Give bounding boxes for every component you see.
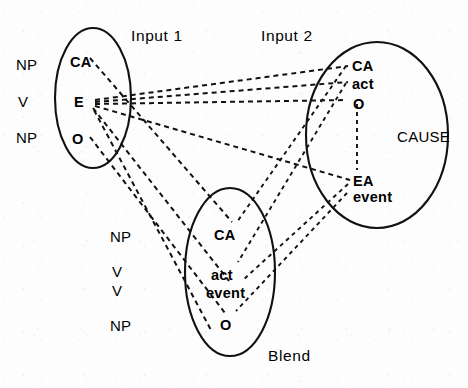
mapping-line-input1e-input2act bbox=[95, 82, 348, 102]
annotation-input2-cause: CAUSE bbox=[397, 129, 450, 144]
role-label-blend-v-1: V bbox=[112, 264, 122, 279]
mapping-line-input2ea-blendevent bbox=[243, 184, 348, 280]
diagram-canvas: Input 1 CA E O NP V NP Input 2 CA act O … bbox=[0, 0, 468, 388]
space-ellipse-input1 bbox=[55, 28, 131, 168]
element-input2-event: event bbox=[353, 190, 392, 205]
element-input2-act: act bbox=[352, 77, 374, 92]
role-label-blend-np-2: NP bbox=[110, 318, 131, 333]
mapping-line-input1e-input2ca bbox=[95, 66, 348, 100]
element-input1-ca: CA bbox=[70, 55, 92, 70]
space-title-input2: Input 2 bbox=[261, 28, 313, 44]
mapping-line-input1e-input2ea bbox=[95, 106, 350, 180]
element-input1-o: O bbox=[72, 132, 84, 147]
space-title-blend: Blend bbox=[268, 348, 311, 364]
element-input2-o: O bbox=[353, 97, 365, 112]
element-blend-act: act bbox=[211, 268, 233, 283]
role-label-input1-np-1: NP bbox=[16, 57, 37, 72]
element-blend-event: event bbox=[206, 286, 245, 301]
element-input1-e: E bbox=[74, 95, 84, 110]
mapping-line-input1o-blendo bbox=[90, 137, 225, 313]
role-label-input1-v: V bbox=[18, 94, 28, 109]
role-label-blend-np-1: NP bbox=[110, 229, 131, 244]
role-label-blend-v-2: V bbox=[112, 283, 122, 298]
space-title-input1: Input 1 bbox=[131, 28, 183, 44]
element-input2-ca: CA bbox=[352, 59, 374, 74]
element-blend-o: O bbox=[220, 318, 232, 333]
element-blend-ca: CA bbox=[214, 228, 236, 243]
mapping-line-input2event-blendo bbox=[236, 193, 347, 311]
element-input2-ea: EA bbox=[353, 174, 374, 189]
role-label-input1-np-2: NP bbox=[16, 130, 37, 145]
